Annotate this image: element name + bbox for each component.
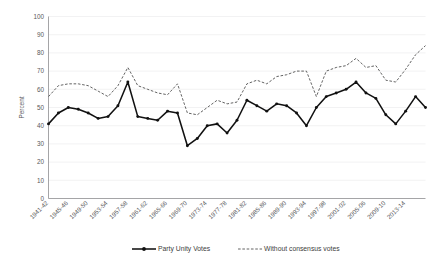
- data-point: [404, 110, 407, 113]
- data-point: [325, 95, 328, 98]
- x-tick-label: 1981-82: [227, 199, 248, 220]
- x-tick-label: 1997-98: [306, 199, 327, 220]
- series-line-party-unity-votes: [49, 82, 426, 146]
- data-point: [156, 119, 159, 122]
- data-point: [394, 122, 397, 125]
- data-point: [216, 122, 219, 125]
- x-tick-label: 1949-50: [68, 199, 89, 220]
- data-point: [345, 88, 348, 91]
- line-chart: 0102030405060708090100 1941-421945-46194…: [0, 0, 435, 263]
- chart-legend: Party Unity VotesWithout consensus votes: [132, 245, 340, 253]
- data-point: [315, 106, 318, 109]
- x-tick-label: 1977-78: [207, 199, 228, 220]
- x-tick-label: 1989-90: [266, 199, 287, 220]
- x-tick-label: 1973-74: [187, 199, 208, 220]
- series-layer: [47, 46, 427, 148]
- y-tick-label: 20: [37, 158, 45, 165]
- data-point: [136, 115, 139, 118]
- y-tick-label: 90: [37, 31, 45, 38]
- data-point: [206, 124, 209, 127]
- data-point: [365, 91, 368, 94]
- y-tick-label: 40: [37, 122, 45, 129]
- data-point: [97, 117, 100, 120]
- data-point: [374, 97, 377, 100]
- data-point: [414, 95, 417, 98]
- x-tick-label: 1985-86: [246, 199, 267, 220]
- legend-marker: [142, 247, 146, 251]
- x-tick-label: 2009-10: [366, 199, 387, 220]
- data-point: [87, 112, 90, 115]
- data-point: [226, 132, 229, 135]
- series-line-without-consensus-votes: [49, 46, 426, 115]
- y-tick-label: 50: [37, 104, 45, 111]
- legend-label: Party Unity Votes: [158, 245, 211, 253]
- data-point: [186, 144, 189, 147]
- chart-container: 0102030405060708090100 1941-421945-46194…: [0, 0, 435, 263]
- y-tick-label: 80: [37, 49, 45, 56]
- y-axis-title: Percent: [18, 96, 25, 118]
- data-point: [176, 112, 179, 115]
- data-point: [57, 112, 60, 115]
- data-point: [295, 112, 298, 115]
- data-point: [67, 106, 70, 109]
- x-tick-label: 1957-58: [108, 199, 129, 220]
- x-tick-label: 1941-42: [28, 199, 49, 220]
- x-tick-label: 2005-06: [346, 199, 367, 220]
- y-tick-label: 100: [33, 13, 44, 20]
- x-axis-tick-labels: 1941-421945-461949-501953-541957-581961-…: [28, 199, 407, 220]
- y-tick-label: 70: [37, 67, 45, 74]
- data-point: [285, 104, 288, 107]
- data-point: [107, 115, 110, 118]
- data-point: [77, 108, 80, 111]
- data-point: [196, 137, 199, 140]
- data-point: [166, 110, 169, 113]
- data-point: [384, 113, 387, 116]
- data-point: [126, 81, 129, 84]
- x-tick-label: 2013-14: [385, 199, 406, 220]
- x-tick-label: 1965-66: [147, 199, 168, 220]
- y-tick-label: 30: [37, 140, 45, 147]
- data-point: [236, 119, 239, 122]
- data-point: [275, 102, 278, 105]
- y-tick-label: 10: [37, 177, 45, 184]
- x-tick-label: 1945-46: [48, 199, 69, 220]
- y-axis-title-text: Percent: [18, 96, 25, 118]
- data-point: [305, 124, 308, 127]
- data-point: [47, 122, 50, 125]
- gridlines: [49, 17, 426, 181]
- data-point: [265, 110, 268, 113]
- data-point: [335, 91, 338, 94]
- data-point: [245, 99, 248, 102]
- data-point: [355, 81, 358, 84]
- legend-label: Without consensus votes: [264, 245, 340, 252]
- data-point: [255, 104, 258, 107]
- x-tick-label: 1961-62: [127, 199, 148, 220]
- y-axis-tick-labels: 0102030405060708090100: [33, 13, 44, 202]
- x-tick-label: 1993-94: [286, 199, 307, 220]
- data-point: [146, 117, 149, 120]
- data-point: [424, 106, 427, 109]
- x-tick-label: 1953-54: [88, 199, 109, 220]
- x-tick-label: 1969-70: [167, 199, 188, 220]
- y-tick-label: 60: [37, 86, 45, 93]
- data-point: [117, 104, 120, 107]
- x-tick-label: 2001-02: [326, 199, 347, 220]
